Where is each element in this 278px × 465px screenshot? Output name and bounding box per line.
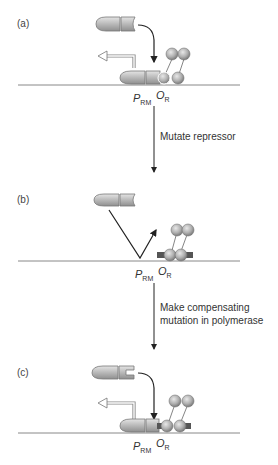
promoter-label: PRM bbox=[133, 92, 151, 106]
binding-arrow-icon bbox=[138, 25, 154, 62]
repressor-icon bbox=[158, 48, 190, 84]
polymerase-bound-icon bbox=[120, 71, 160, 84]
step-1-label: Mutate repressor bbox=[160, 131, 236, 142]
repelled-arrow-icon bbox=[109, 210, 156, 258]
step-2-label-line-2: mutation in polymerase bbox=[160, 315, 264, 326]
polymerase-bound-icon bbox=[120, 419, 162, 432]
polymerase-free-icon bbox=[96, 17, 135, 31]
mutant-repressor-icon bbox=[157, 224, 194, 261]
operator-label: OR bbox=[156, 437, 170, 451]
panel-a: (a) PRM OR bbox=[17, 17, 240, 106]
promoter-label: PRM bbox=[135, 268, 153, 282]
panel-b: (b) PRM OR bbox=[17, 194, 240, 282]
panel-c: (c) PRM OR bbox=[17, 366, 240, 454]
operator-label: OR bbox=[156, 89, 170, 103]
binding-arrow-icon bbox=[138, 373, 154, 419]
polymerase-free-icon bbox=[94, 194, 135, 206]
panel-b-label: (b) bbox=[17, 194, 29, 205]
panel-c-label: (c) bbox=[17, 367, 29, 378]
step-2-label-line-1: Make compensating bbox=[160, 302, 250, 313]
promoter-label: PRM bbox=[133, 440, 151, 454]
mutant-polymerase-free-icon bbox=[92, 366, 134, 379]
transcription-arrow-icon bbox=[98, 51, 134, 68]
panel-a-label: (a) bbox=[17, 18, 29, 29]
diagram-canvas: (a) PRM OR bbox=[0, 0, 278, 465]
mutant-repressor-icon bbox=[161, 395, 194, 432]
operator-label: OR bbox=[158, 265, 172, 279]
